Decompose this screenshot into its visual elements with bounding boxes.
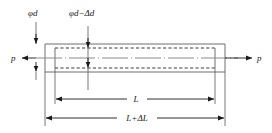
dimension-length-original: L (56, 94, 214, 104)
diameter-reduced-label: φd−Δd (69, 8, 95, 18)
length-original-label: L (132, 94, 138, 104)
figure-container: p p φd φd−Δd (0, 0, 272, 133)
force-left-label: p (10, 53, 16, 63)
force-right-group: p (225, 53, 262, 63)
length-extended-label: L+ΔL (125, 113, 147, 123)
dimension-length-extended: L+ΔL (46, 113, 224, 123)
force-right-label: p (256, 53, 262, 63)
bar-elongation-diagram: p p φd φd−Δd (0, 0, 272, 133)
dimension-diameter-original: φd (28, 8, 38, 80)
force-left-group: p (10, 53, 36, 63)
diameter-original-label: φd (28, 8, 38, 18)
dimension-diameter-reduced: φd−Δd (69, 8, 95, 90)
